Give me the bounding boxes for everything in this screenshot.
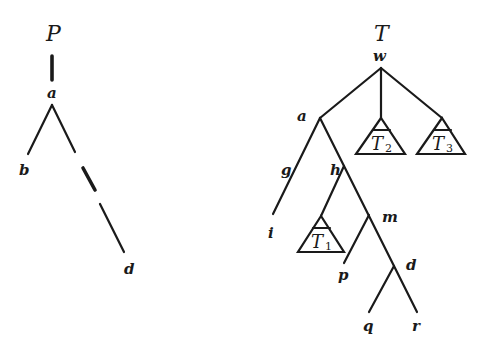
node-r: r bbox=[412, 317, 421, 335]
node-b: b bbox=[19, 161, 30, 179]
edge-m-to-p bbox=[344, 215, 369, 263]
subtree-t3: T 3 bbox=[417, 118, 465, 155]
edge-w-to-a bbox=[320, 68, 381, 118]
node-a: a bbox=[297, 107, 307, 125]
subtree-t1-subscript: 1 bbox=[325, 240, 332, 253]
edge-a-to-d-part2 bbox=[100, 204, 124, 252]
node-w: w bbox=[373, 47, 387, 65]
edge-a-to-d-part1 bbox=[52, 105, 75, 152]
subtree-t3-subscript: 3 bbox=[446, 142, 453, 155]
edge-d-to-q bbox=[369, 266, 394, 312]
edge-a-to-d-dash bbox=[83, 168, 95, 190]
node-q: q bbox=[363, 317, 374, 335]
node-m: m bbox=[382, 208, 398, 226]
edge-a-to-b bbox=[28, 105, 52, 154]
node-p: p bbox=[338, 266, 349, 284]
edge-w-to-t3 bbox=[381, 68, 442, 118]
edge-label-g: g bbox=[281, 161, 292, 179]
pattern-tree-title: P bbox=[45, 21, 62, 46]
subtree-t2-subscript: 2 bbox=[385, 142, 392, 155]
target-tree: T w T 2 T 3 a g i h T bbox=[268, 21, 465, 335]
node-a: a bbox=[47, 84, 57, 102]
node-d: d bbox=[124, 260, 135, 278]
node-d: d bbox=[406, 256, 417, 274]
subtree-t1-label: T bbox=[311, 231, 325, 252]
pattern-tree: P a b d bbox=[19, 21, 135, 278]
tree-diagram: P a b d T w T 2 T 3 a bbox=[0, 0, 489, 351]
subtree-t2-label: T bbox=[371, 133, 385, 154]
node-i: i bbox=[268, 224, 274, 242]
subtree-t2: T 2 bbox=[356, 118, 405, 155]
target-tree-title: T bbox=[374, 21, 391, 46]
subtree-t3-label: T bbox=[432, 133, 446, 154]
subtree-t1: T 1 bbox=[298, 216, 344, 253]
